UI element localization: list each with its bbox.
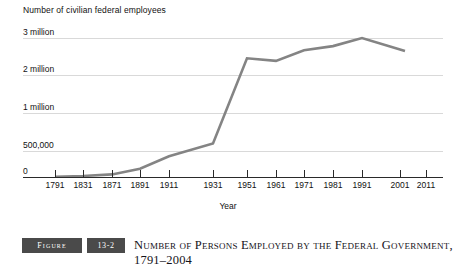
chart-panel: Number of civilian federal employees 3 m… [0,0,466,220]
figure-caption: Figure 13-2 Number of Persons Employed b… [22,238,464,268]
figure-caption-bar: Figure 13-2 Number of Persons Employed b… [0,220,466,279]
x-tick-mark-1961 [276,170,277,177]
x-axis-title: Year [219,201,236,211]
series-line-civilian-employees [55,38,405,177]
x-tick-label-1871: 1871 [103,180,122,190]
x-tick-label-1891: 1891 [131,180,150,190]
x-tick-label-1981: 1981 [324,180,343,190]
x-tick-mark-1971 [304,170,305,177]
x-tick-label-2011: 2011 [417,180,435,190]
x-tick-label-1971: 1971 [295,180,314,190]
x-tick-label-1911: 1911 [160,180,178,190]
x-tick-label-1831: 1831 [74,180,93,190]
x-tick-mark-1951 [247,170,248,177]
x-tick-mark-1981 [333,170,334,177]
x-tick-label-1951: 1951 [238,180,257,190]
x-tick-mark-1911 [169,170,170,177]
figure-number-badge: 13-2 [87,238,125,253]
x-tick-label-1931: 1931 [204,180,223,190]
figure-caption-title: Number of Persons Employed by the Federa… [134,238,464,268]
x-tick-mark-2001 [400,170,401,177]
x-tick-label-1991: 1991 [353,180,372,190]
x-tick-label-1791: 1791 [46,180,65,190]
x-tick-mark-1891 [140,170,141,177]
x-tick-mark-1931 [213,170,214,177]
x-tick-mark-1831 [83,170,84,177]
x-tick-mark-1871 [112,170,113,177]
figure-container: Number of civilian federal employees 3 m… [0,0,466,279]
x-axis-line [23,177,443,178]
x-tick-mark-1791 [55,170,56,177]
figure-label-badge: Figure [22,238,82,253]
x-tick-mark-1991 [362,170,363,177]
x-tick-label-2001: 2001 [391,180,410,190]
x-tick-label-1961: 1961 [267,180,286,190]
x-tick-mark-2011 [426,170,427,177]
